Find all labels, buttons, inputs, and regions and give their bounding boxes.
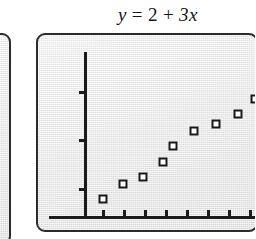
y-axis-tick (79, 91, 87, 94)
equation-plus-sign: + (163, 4, 174, 25)
adjacent-screen-surface (0, 35, 9, 239)
scatter-plot-surface (38, 35, 255, 230)
x-axis-tick (186, 210, 189, 217)
x-axis-tick (102, 210, 105, 217)
y-axis-tick (79, 188, 87, 191)
data-point-marker (169, 142, 178, 151)
calculator-screen (36, 33, 255, 232)
figure-canvas: y=2+3x (0, 0, 255, 239)
data-point-marker (159, 158, 168, 167)
adjacent-calculator-screen (0, 33, 11, 239)
x-axis-tick (228, 210, 231, 217)
data-point-marker (251, 95, 256, 104)
x-axis-tick (123, 210, 126, 217)
equation-variable-y: y (118, 4, 127, 25)
data-point-marker (190, 127, 199, 136)
data-point-marker (99, 195, 108, 204)
x-axis-tick (144, 210, 147, 217)
x-axis-tick (165, 210, 168, 217)
data-point-marker (212, 120, 221, 129)
y-axis-line (84, 52, 87, 218)
y-axis-tick (79, 139, 87, 142)
equation-slope-term: 3x (179, 4, 198, 25)
data-point-marker (139, 173, 148, 182)
equation-title: y=2+3x (118, 2, 255, 28)
data-point-marker (119, 180, 128, 189)
data-point-marker (234, 110, 243, 119)
equation-intercept: 2 (148, 4, 158, 25)
x-axis-tick (249, 210, 252, 217)
equation-equals-sign: = (132, 4, 143, 25)
x-axis-line (49, 216, 255, 219)
x-axis-tick (207, 210, 210, 217)
